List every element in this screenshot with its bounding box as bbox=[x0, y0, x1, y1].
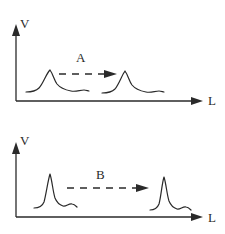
pulse-b-final bbox=[150, 177, 191, 210]
l-axis-label-b: L bbox=[208, 210, 216, 225]
v-axis-label-b: V bbox=[20, 133, 30, 148]
transition-label-a: A bbox=[76, 50, 86, 65]
l-axis-arrow-icon bbox=[191, 213, 203, 221]
diagram-canvas: V L A V L B bbox=[0, 0, 225, 234]
propagation-arrow-icon bbox=[136, 184, 149, 192]
panel-b: V L B bbox=[12, 133, 216, 225]
pulse-b-initial bbox=[34, 174, 77, 208]
v-axis-arrow-icon bbox=[12, 24, 20, 36]
l-axis-label-a: L bbox=[208, 93, 216, 108]
propagation-arrow-icon bbox=[104, 70, 117, 78]
v-axis-arrow-icon bbox=[12, 142, 20, 154]
pulse-a-initial bbox=[26, 70, 89, 92]
panel-a: V L A bbox=[12, 16, 216, 108]
v-axis-label-a: V bbox=[20, 16, 30, 31]
l-axis-arrow-icon bbox=[191, 97, 203, 105]
transition-label-b: B bbox=[96, 167, 105, 182]
